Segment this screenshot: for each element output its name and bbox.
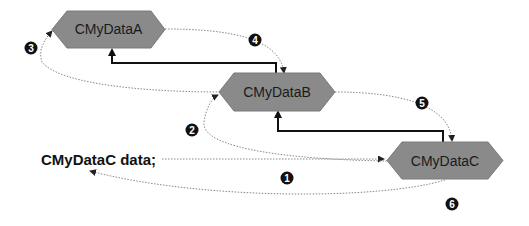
- svg-text:5: 5: [419, 98, 425, 109]
- step-badge-2: 2: [186, 124, 199, 137]
- node-label-a: CMyDataA: [75, 21, 143, 37]
- flow-edge-5: [335, 92, 452, 141]
- node-label-b: CMyDataB: [243, 84, 311, 100]
- step-badge-6: 6: [446, 198, 459, 211]
- node-cmydataa[interactable]: CMyDataA: [52, 11, 165, 48]
- flow-edge-6: [90, 171, 445, 194]
- svg-text:3: 3: [28, 43, 34, 54]
- code-declaration-label: CMyDataC data;: [41, 151, 156, 168]
- step-badge-3: 3: [25, 42, 38, 55]
- svg-text:1: 1: [284, 173, 290, 184]
- flow-edge-4: [165, 29, 284, 73]
- step-badge-5: 5: [416, 97, 429, 110]
- step-badge-4: 4: [249, 34, 262, 47]
- svg-text:6: 6: [449, 199, 455, 210]
- inheritance-edge-c-to-b: [278, 114, 443, 143]
- svg-text:4: 4: [252, 35, 258, 46]
- diagram-canvas: CMyDataA CMyDataB CMyDataC CMyDataC data…: [0, 0, 529, 226]
- inheritance-edge-b-to-a: [112, 52, 276, 74]
- svg-text:2: 2: [189, 125, 195, 136]
- step-badge-1: 1: [281, 172, 294, 185]
- node-label-c: CMyDataC: [411, 153, 479, 169]
- node-cmydatac[interactable]: CMyDataC: [387, 142, 503, 179]
- node-cmydatab[interactable]: CMyDataB: [219, 73, 335, 111]
